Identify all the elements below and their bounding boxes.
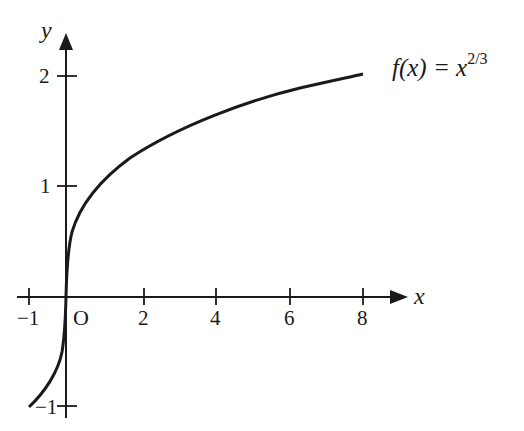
y-tick-label-1: 1	[40, 176, 51, 197]
function-annotation: f(x) = x2/3	[392, 54, 488, 82]
x-tick-label-8: 8	[357, 308, 368, 329]
x-tick-label-2: 2	[138, 308, 149, 329]
x-tick-label-6: 6	[284, 308, 295, 329]
y-axis-label: y	[41, 18, 52, 42]
function-exponent: 2/3	[467, 50, 487, 67]
y-tick-label-m1: −1	[35, 397, 57, 418]
function-base: f(x) = x	[392, 54, 467, 81]
y-axis-arrow-icon	[59, 33, 73, 50]
origin-label: O	[73, 307, 89, 329]
x-tick-label-4: 4	[210, 308, 221, 329]
x-axis-label: x	[414, 284, 425, 308]
y-tick-label-2: 2	[39, 66, 50, 87]
x-tick-label-m1: −1	[17, 308, 39, 329]
x-axis-arrow-icon	[390, 290, 408, 304]
function-curve	[29, 74, 363, 407]
